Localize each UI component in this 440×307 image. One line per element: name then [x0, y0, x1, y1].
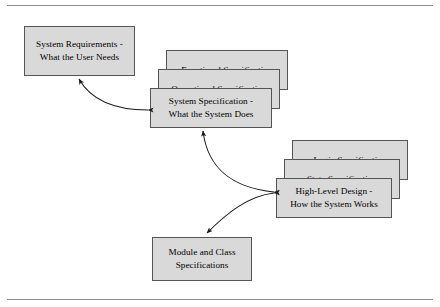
arrow-high-level-design-system-specification	[203, 131, 274, 192]
arrow-high-level-design-module-and-class-specifications	[207, 193, 274, 233]
connector-arrows	[0, 0, 440, 307]
arrow-system-specification-system-requirements	[79, 79, 148, 110]
diagram-canvas: Functional Specification Operational Spe…	[0, 0, 440, 307]
